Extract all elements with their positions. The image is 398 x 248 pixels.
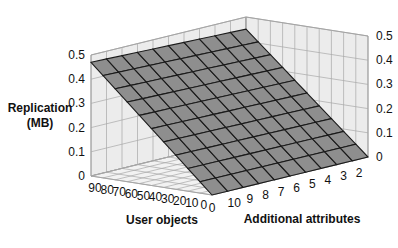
y-tick: 6 — [293, 181, 300, 195]
z-tick-right: 0.3 — [376, 77, 393, 91]
z-tick-right: 0.5 — [376, 29, 393, 43]
z-tick-right: 0.4 — [376, 53, 393, 67]
z-axis-label-line2: (MB) — [27, 116, 54, 130]
z-tick-left: 0 — [78, 169, 85, 183]
x-tick: 0 — [201, 198, 208, 212]
x-tick: 10 — [185, 196, 199, 210]
y-tick: 8 — [262, 188, 269, 202]
z-tick-left: 0.2 — [68, 121, 85, 135]
surface-chart: 000.10.10.20.20.30.30.40.40.50.590807060… — [0, 0, 398, 248]
y-tick: 2 — [356, 166, 363, 180]
z-tick-left: 0.1 — [68, 145, 85, 159]
y-tick: 5 — [309, 177, 316, 191]
z-axis-label-line1: Replication — [8, 101, 73, 115]
y-axis-label: Additional attributes — [244, 212, 361, 226]
x-axis-label: User objects — [126, 213, 198, 227]
z-tick-left: 0.4 — [68, 72, 85, 86]
z-tick-left: 0.5 — [68, 48, 85, 62]
y-tick: 9 — [247, 192, 254, 206]
z-tick-right: 0.2 — [376, 102, 393, 116]
z-tick-right: 0 — [376, 150, 383, 164]
y-tick: 3 — [340, 169, 347, 183]
z-tick-right: 0.1 — [376, 126, 393, 140]
y-tick: 4 — [325, 173, 332, 187]
y-tick: 10 — [228, 196, 242, 210]
y-tick: 0 — [209, 201, 216, 215]
y-tick: 7 — [278, 185, 285, 199]
